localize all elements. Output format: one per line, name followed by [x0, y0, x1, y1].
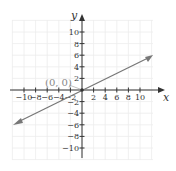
coordinate-graph: −10−8−6−4−2246810108642−2−4−6−8−10 x y (…: [0, 0, 176, 171]
y-axis-label: y: [70, 9, 78, 22]
x-tick-label: −8: [30, 93, 42, 102]
x-tick-label: 2: [91, 93, 96, 102]
x-tick-label: −4: [53, 93, 65, 102]
y-tick-label: −4: [67, 109, 79, 118]
x-tick-label: 10: [135, 93, 145, 102]
y-tick-label: −6: [67, 121, 79, 130]
origin-point: [80, 88, 84, 92]
y-tick-label: 10: [69, 28, 79, 37]
y-tick-label: 4: [74, 63, 79, 72]
x-tick-label: 8: [126, 93, 131, 102]
x-tick-label: −6: [41, 93, 53, 102]
y-tick-label: 6: [74, 51, 79, 60]
y-tick-label: 2: [74, 74, 79, 83]
y-tick-label: −10: [62, 144, 79, 153]
y-axis-arrow-icon: [79, 14, 85, 21]
line-arrow-left-icon: [13, 118, 23, 125]
y-tick-label: 8: [74, 40, 79, 49]
x-axis-label: x: [163, 91, 170, 104]
x-tick-label: 4: [103, 93, 108, 102]
y-tick-label: −8: [67, 132, 79, 141]
y-tick-label: −2: [67, 98, 79, 107]
origin-point-label: (0, 0): [45, 77, 72, 88]
x-tick-label: 6: [114, 93, 119, 102]
